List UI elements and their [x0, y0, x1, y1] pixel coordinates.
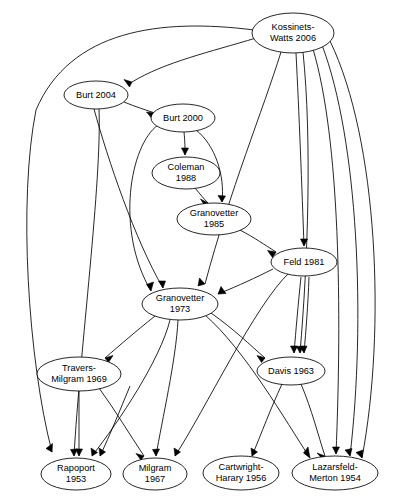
edge-line	[124, 102, 155, 113]
edge-line	[130, 125, 158, 291]
edge-arrowhead-icon	[153, 449, 160, 456]
node-ellipse[interactable]	[292, 456, 378, 490]
edge-line	[300, 52, 308, 353]
nodes-layer: Kossinets-Watts 2006Burt 2004Burt 2000Co…	[37, 13, 378, 490]
node-rapoport_1953[interactable]: Rapoport1953	[41, 458, 111, 490]
edge-arrowhead-icon	[46, 444, 53, 453]
edge-burt_2004-to-burt_2000	[124, 102, 155, 119]
edge-granovetter_1973-to-travers_milgram_1969	[105, 316, 155, 363]
citation-network-diagram: Kossinets-Watts 2006Burt 2004Burt 2000Co…	[0, 0, 397, 504]
edge-arrowhead-icon	[99, 448, 106, 456]
edge-davis_1963-to-lazarsfeld_merton_1954	[301, 384, 325, 459]
node-ellipse[interactable]	[142, 288, 218, 320]
node-ellipse[interactable]	[151, 104, 215, 132]
node-granovetter_1973[interactable]: Granovetter1973	[142, 288, 218, 320]
edge-kossinets_watts_2006-to-lazarsfeld_merton_1954	[330, 41, 375, 458]
edge-line	[330, 41, 375, 458]
edge-kossinets_watts_2006-to-lazarsfeld_merton_1954	[322, 45, 358, 456]
node-ellipse[interactable]	[177, 203, 251, 235]
node-lazarsfeld_merton_1954[interactable]: Lazarsfeld-Merton 1954	[292, 456, 378, 490]
edge-arrowhead-icon	[304, 447, 311, 458]
node-burt_2004[interactable]: Burt 2004	[64, 81, 128, 109]
node-ellipse[interactable]	[41, 458, 111, 490]
edge-arrowhead-icon	[356, 450, 363, 458]
edge-arrowhead-icon	[159, 281, 166, 288]
node-ellipse[interactable]	[123, 458, 187, 490]
node-ellipse[interactable]	[252, 13, 334, 53]
edge-arrowhead-icon	[218, 287, 226, 295]
edge-line	[94, 109, 163, 288]
edge-arrowhead-icon	[251, 448, 258, 456]
edge-line	[156, 320, 178, 456]
graph-svg: Kossinets-Watts 2006Burt 2004Burt 2000Co…	[0, 0, 397, 504]
edge-granovetter_1973-to-lazarsfeld_merton_1954	[205, 315, 310, 458]
node-ellipse[interactable]	[64, 81, 128, 109]
edge-burt_2000-to-granovetter_1973	[130, 125, 158, 291]
edge-granovetter_1973-to-milgram_1967	[153, 320, 179, 456]
edge-line	[296, 53, 304, 246]
edge-line	[99, 388, 144, 456]
node-ellipse[interactable]	[37, 357, 121, 391]
node-ellipse[interactable]	[271, 248, 337, 276]
edge-granovetter_1973-to-davis_1963	[211, 313, 265, 363]
edge-line	[105, 316, 155, 358]
edge-arrowhead-icon	[182, 148, 189, 155]
node-milgram_1967[interactable]: Milgram1967	[123, 458, 187, 490]
edge-arrowhead-icon	[291, 346, 298, 353]
node-davis_1963[interactable]: Davis 1963	[257, 357, 325, 385]
node-cartwright_harary_1956[interactable]: Cartwright-Harary 1956	[203, 456, 279, 490]
edge-line	[74, 109, 99, 456]
node-ellipse[interactable]	[203, 456, 279, 490]
node-kossinets_watts_2006[interactable]: Kossinets-Watts 2006	[252, 13, 334, 53]
edge-arrowhead-icon	[76, 449, 83, 456]
edge-line	[132, 38, 256, 82]
node-travers_milgram_1969[interactable]: Travers-Milgram 1969	[37, 357, 121, 391]
edge-line	[240, 230, 276, 252]
edge-arrowhead-icon	[198, 278, 205, 286]
edge-milgram_1967_src-to-rapoport_1953	[99, 386, 130, 456]
edge-arrowhead-icon	[147, 282, 154, 291]
node-coleman_1988[interactable]: Coleman1988	[152, 157, 220, 189]
edge-line	[294, 277, 301, 353]
node-granovetter_1985[interactable]: Granovetter1985	[177, 203, 251, 235]
node-burt_2000[interactable]: Burt 2000	[151, 104, 215, 132]
edge-arrowhead-icon	[124, 80, 132, 88]
edge-travers_milgram_1969-to-milgram_1967	[99, 388, 144, 460]
node-feld_1981[interactable]: Feld 1981	[271, 248, 337, 276]
edge-arrowhead-icon	[333, 447, 340, 454]
edge-burt_2004-to-rapoport_1953	[71, 109, 100, 456]
edge-kossinets_watts_2006-to-burt_2004	[124, 38, 256, 87]
node-ellipse[interactable]	[152, 157, 220, 189]
edge-burt_2000-to-coleman_1988	[182, 132, 189, 155]
node-ellipse[interactable]	[257, 357, 325, 385]
edge-feld_1981-to-davis_1963	[291, 277, 302, 353]
edge-arrowhead-icon	[345, 449, 352, 457]
edge-line	[252, 384, 282, 456]
edge-line	[301, 384, 325, 456]
edge-arrowhead-icon	[218, 196, 226, 203]
edge-arrowhead-icon	[91, 448, 98, 456]
edge-granovetter_1985-to-feld_1981	[240, 230, 276, 258]
edge-line	[218, 269, 273, 294]
edge-line	[322, 45, 358, 456]
edge-feld_1981-to-granovetter_1973	[218, 269, 273, 294]
edge-davis_1963-to-cartwright_harary_1956	[251, 384, 282, 456]
edge-line	[205, 315, 310, 458]
